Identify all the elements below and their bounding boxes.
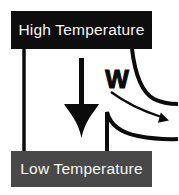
heat-engine-diagram: High Temperature W Low Temperature [0,0,179,195]
work-channel-upper-curve [132,49,178,104]
work-direction-arrow-head [158,112,169,122]
work-channel-lower-curve [107,112,178,153]
work-label: W [105,65,129,93]
low-temperature-reservoir: Low Temperature [11,151,152,187]
low-temperature-label: Low Temperature [20,160,142,178]
heat-flow-arrow-head [64,104,99,138]
work-direction-arrow-line [111,92,160,117]
